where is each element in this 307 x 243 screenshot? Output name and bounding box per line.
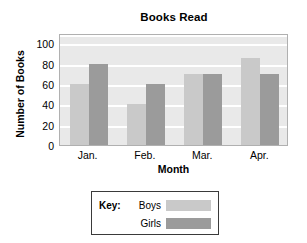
legend-swatch-boys: [166, 200, 211, 211]
books-read-bar-chart: Books Read Number of Books 020406080100 …: [0, 0, 307, 243]
x-tick-label: Apr.: [230, 150, 288, 161]
bar-group: [241, 35, 279, 145]
bar-girls-jan: [89, 64, 108, 145]
bar-boys-feb: [127, 104, 146, 145]
bar-girls-apr: [260, 74, 279, 145]
bar-group: [70, 35, 108, 145]
bar-group: [127, 35, 165, 145]
y-tick-label: 80: [28, 60, 54, 70]
y-tick-label: 20: [28, 121, 54, 131]
legend-label-boys: Boys: [127, 200, 161, 211]
y-tick-label: 40: [28, 100, 54, 110]
y-tick-label: 0: [28, 141, 54, 151]
bars-layer: [60, 35, 287, 145]
x-tick-label: Jan.: [59, 150, 117, 161]
bar-boys-apr: [241, 58, 260, 145]
plot-area: [59, 34, 288, 146]
bar-boys-mar: [184, 74, 203, 145]
y-tick-label: 60: [28, 80, 54, 90]
x-tick-label: Feb.: [116, 150, 174, 161]
legend-row-boys: Key: Boys: [92, 196, 218, 214]
x-axis-title: Month: [59, 163, 288, 175]
y-tick-label: 100: [28, 39, 54, 49]
x-tick-label: Mar.: [173, 150, 231, 161]
bar-group: [184, 35, 222, 145]
bar-girls-feb: [146, 84, 165, 145]
legend-swatch-girls: [166, 218, 211, 229]
legend-label-girls: Girls: [127, 218, 161, 229]
legend: Key: Boys Girls: [91, 191, 219, 235]
bar-boys-jan: [70, 84, 89, 145]
legend-key-label: Key:: [99, 200, 121, 211]
bar-girls-mar: [203, 74, 222, 145]
y-axis-title: Number of Books: [14, 37, 26, 152]
legend-row-girls: Girls: [92, 214, 218, 232]
chart-title: Books Read: [59, 11, 289, 24]
